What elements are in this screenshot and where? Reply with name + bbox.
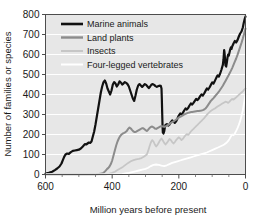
- y-tick-label: 400: [23, 89, 40, 100]
- species-diversity-line-chart: 6004002000 0100200300400500600700800 Mar…: [0, 0, 255, 218]
- y-tick-label: 500: [23, 69, 40, 80]
- x-axis-title: Million years before present: [90, 204, 207, 215]
- y-tick-label: 300: [23, 109, 40, 120]
- figure-container: 6004002000 0100200300400500600700800 Mar…: [0, 0, 255, 218]
- y-tick-label: 800: [23, 9, 40, 20]
- x-tick-label: 400: [104, 181, 121, 192]
- x-tick-label: 200: [170, 181, 187, 192]
- x-tick-label: 600: [37, 181, 54, 192]
- legend-label-1: Land plants: [87, 33, 134, 43]
- y-tick-label: 600: [23, 49, 40, 60]
- y-axis-tick-labels: 0100200300400500600700800: [23, 9, 40, 180]
- y-tick-label: 200: [23, 129, 40, 140]
- y-axis-title: Number of families or species: [2, 31, 13, 156]
- y-tick-label: 700: [23, 29, 40, 40]
- legend-label-2: Insects: [87, 46, 116, 56]
- y-tick-label: 0: [34, 169, 40, 180]
- x-tick-label: 0: [243, 181, 249, 192]
- legend-label-3: Four-legged vertebrates: [87, 60, 184, 70]
- y-tick-label: 100: [23, 149, 40, 160]
- legend-label-0: Marine animals: [87, 19, 149, 29]
